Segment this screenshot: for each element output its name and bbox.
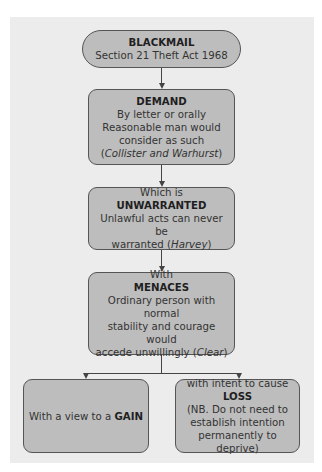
loss-line: (NB. Do not need to (187, 403, 288, 416)
paren: ) (207, 239, 211, 250)
branch-line (85, 373, 239, 374)
blackmail-box: BLACKMAIL Section 21 Theft Act 1968 (82, 30, 241, 68)
gain-box: With a view to a GAIN (23, 379, 149, 453)
loss-line: permanently to deprive) (180, 429, 295, 455)
unwarranted-line: Unlawful acts can never be (93, 212, 230, 238)
paren: ) (223, 347, 227, 358)
demand-case-line: (Collister and Warhurst) (101, 147, 223, 160)
connector-line (161, 250, 162, 266)
menaces-box: With MENACES Ordinary person with normal… (88, 272, 235, 355)
blackmail-subtitle: Section 21 Theft Act 1968 (95, 49, 227, 62)
case-name: Collister and Warhurst (105, 148, 219, 159)
case-name: Clear (197, 347, 224, 358)
text: warranted ( (112, 239, 171, 250)
case-name: Harvey (171, 239, 207, 250)
demand-line: By letter or orally (117, 108, 206, 121)
connector-line (161, 355, 162, 373)
menaces-line: Ordinary person with normal (93, 294, 230, 320)
menaces-line: stability and courage would (93, 320, 230, 346)
paren: ) (218, 148, 222, 159)
demand-box: DEMAND By letter or orally Reasonable ma… (88, 89, 235, 165)
connector-line (161, 165, 162, 181)
demand-line: consider as such (119, 134, 204, 147)
unwarranted-heading: UNWARRANTED (117, 199, 207, 212)
loss-line: establish intention (190, 416, 284, 429)
text: With a view to a (29, 411, 115, 422)
gain-text: With a view to a GAIN (29, 410, 143, 423)
gain-heading: GAIN (114, 411, 143, 422)
blackmail-heading: BLACKMAIL (129, 36, 195, 49)
unwarranted-prefix: Which is (140, 186, 183, 199)
unwarranted-box: Which is UNWARRANTED Unlawful acts can n… (88, 187, 235, 250)
menaces-heading: MENACES (134, 281, 189, 294)
connector-line (161, 68, 162, 84)
demand-heading: DEMAND (136, 95, 186, 108)
text: accede unwillingly ( (96, 347, 197, 358)
loss-prefix: with intent to cause (187, 377, 288, 390)
demand-line: Reasonable man would (102, 121, 220, 134)
loss-box: with intent to cause LOSS (NB. Do not ne… (175, 379, 300, 453)
loss-heading: LOSS (223, 390, 252, 403)
menaces-prefix: With (150, 268, 173, 281)
